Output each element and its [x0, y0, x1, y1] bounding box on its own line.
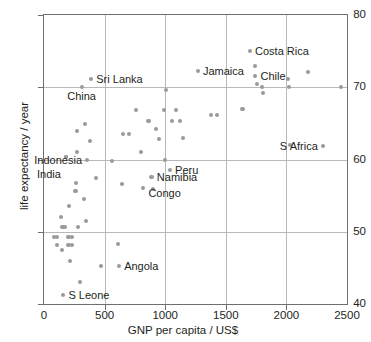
data-point	[147, 119, 151, 123]
data-point	[75, 129, 79, 133]
annotation-label: Chile	[260, 70, 285, 81]
annotation-label: Angola	[124, 261, 158, 272]
data-point	[174, 108, 178, 112]
data-point	[215, 113, 219, 117]
data-point	[134, 108, 138, 112]
data-point	[85, 158, 89, 162]
annotation-label: China	[67, 91, 96, 102]
annotation-label: Congo	[148, 188, 180, 199]
data-point	[55, 235, 59, 239]
data-point	[82, 197, 86, 201]
gridline-horizontal	[44, 87, 347, 88]
data-point	[255, 82, 259, 86]
data-point	[157, 137, 161, 141]
data-point	[59, 215, 63, 219]
data-point	[150, 175, 154, 179]
data-point	[163, 158, 167, 162]
data-point	[181, 136, 185, 140]
x-tick-label: 2500	[322, 310, 371, 322]
x-tick-label: 1000	[140, 310, 190, 322]
data-point	[61, 293, 65, 297]
data-point	[321, 144, 325, 148]
data-point	[55, 243, 59, 247]
data-point	[261, 91, 265, 95]
data-point	[127, 132, 131, 136]
data-point	[80, 85, 84, 89]
annotation-label: S Africa	[280, 140, 318, 151]
data-point	[241, 107, 245, 111]
annotation-label: Sri Lanka	[96, 73, 142, 84]
data-point	[84, 219, 88, 223]
y-axis-title: life expectancy / year	[18, 76, 30, 236]
data-point	[139, 150, 143, 154]
data-point	[83, 122, 87, 126]
data-point	[260, 85, 264, 89]
data-point	[248, 49, 252, 53]
data-point	[178, 119, 182, 123]
data-point	[164, 88, 168, 92]
data-point	[154, 127, 158, 131]
annotation-label: India	[37, 168, 61, 179]
data-point	[60, 248, 64, 252]
data-point	[89, 77, 93, 81]
data-point	[74, 181, 78, 185]
data-point	[116, 242, 120, 246]
data-point	[70, 235, 74, 239]
gridline-horizontal	[44, 232, 347, 233]
plot-area: Sri LankaChinaJamaicaCosta RicaChileS Af…	[43, 14, 348, 305]
data-point	[117, 264, 121, 268]
data-point	[88, 139, 92, 143]
data-point	[286, 77, 290, 81]
data-point	[253, 74, 257, 78]
data-point	[121, 132, 125, 136]
data-point	[339, 85, 343, 89]
data-point	[253, 64, 257, 68]
data-point	[110, 159, 114, 163]
data-point	[63, 225, 67, 229]
data-point	[287, 85, 291, 89]
data-point	[209, 113, 213, 117]
data-point	[94, 176, 98, 180]
data-point	[70, 243, 74, 247]
x-tick-label: 2000	[261, 310, 311, 322]
annotation-label: Jamaica	[203, 66, 244, 77]
x-axis-title: GNP per capita / US$	[0, 324, 366, 336]
data-point	[120, 182, 124, 186]
data-point	[78, 280, 82, 284]
data-point	[196, 69, 200, 73]
x-tick-label: 500	[80, 310, 130, 322]
data-point	[76, 225, 80, 229]
data-point	[99, 264, 103, 268]
x-tick-label: 1500	[201, 310, 251, 322]
gridline-horizontal	[44, 160, 347, 161]
x-tick-label: 0	[19, 310, 69, 322]
annotation-label: Namibia	[157, 171, 197, 182]
annotation-label: S Leone	[68, 289, 109, 300]
data-point	[68, 259, 72, 263]
data-point	[74, 189, 78, 193]
data-point	[67, 204, 71, 208]
data-point	[141, 186, 145, 190]
annotation-label: Indonesia	[34, 154, 82, 165]
data-point	[170, 119, 174, 123]
data-point	[306, 70, 310, 74]
annotation-label: Costa Rica	[255, 46, 309, 57]
